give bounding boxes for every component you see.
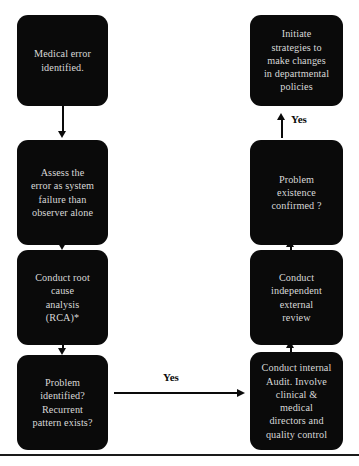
edge-label-yes-horizontal: Yes	[163, 371, 179, 383]
footer-divider	[0, 454, 359, 456]
node-conduct-internal-audit: Conduct internal Audit. Involve clinical…	[250, 352, 343, 450]
node-label: Problem identified? Recurrent pattern ex…	[22, 376, 103, 429]
arrow-down-icon-left-3	[58, 348, 66, 355]
node-initiate-strategies: Initiate strategies to make changes in d…	[250, 15, 343, 106]
arrow-up-icon-right-1	[277, 113, 285, 120]
node-conduct-rca: Conduct root cause analysis (RCA)*	[17, 250, 108, 345]
connector-line-right-1	[281, 118, 283, 138]
connector-line-horizontal	[114, 392, 239, 394]
arrow-down-icon-left-1	[58, 131, 66, 138]
arrow-right-icon	[237, 389, 245, 397]
node-label: Conduct independent external review	[255, 271, 338, 324]
node-problem-existence-confirmed: Problem existence confirmed ?	[250, 140, 343, 245]
node-label: Conduct root cause analysis (RCA)*	[22, 271, 103, 324]
edge-label-yes-vertical: Yes	[291, 113, 307, 125]
node-label: Conduct internal Audit. Involve clinical…	[255, 361, 338, 441]
node-label: Medical error identified.	[22, 47, 103, 74]
node-label: Initiate strategies to make changes in d…	[255, 27, 338, 93]
node-assess-error: Assess the error as system failure than …	[17, 140, 108, 245]
node-label: Problem existence confirmed ?	[255, 173, 338, 213]
arrow-down-icon-left-2	[58, 243, 66, 250]
node-medical-error-identified: Medical error identified.	[17, 15, 108, 106]
arrow-up-icon-right-2	[286, 240, 294, 247]
node-label: Assess the error as system failure than …	[22, 166, 103, 219]
node-conduct-external-review: Conduct independent external review	[250, 250, 343, 345]
connector-line-left-1	[62, 106, 64, 133]
node-problem-identified: Problem identified? Recurrent pattern ex…	[17, 355, 108, 450]
arrow-up-icon-right-3	[286, 341, 294, 348]
flowchart-diagram: Medical error identified. Assess the err…	[0, 0, 359, 466]
